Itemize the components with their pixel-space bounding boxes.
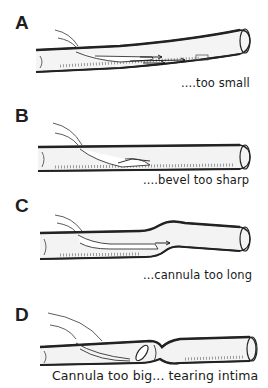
panel-a: A ....too small	[0, 0, 268, 95]
caption-cannula-too-long: ...cannula too long	[143, 269, 252, 282]
panel-d: D Cannula too big... tearing intima	[0, 283, 268, 388]
panel-b: B ....bevel too sharp	[0, 95, 268, 187]
panel-c: C ...cannula too long	[0, 187, 268, 283]
caption-cannula-too-big: Cannula too big... tearing intima	[52, 369, 258, 382]
caption-too-small: ....too small	[181, 77, 250, 90]
caption-bevel-too-sharp: ....bevel too sharp	[143, 174, 249, 187]
